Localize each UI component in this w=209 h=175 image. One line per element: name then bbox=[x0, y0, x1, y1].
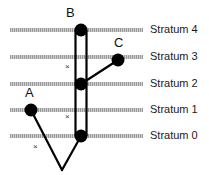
node-a bbox=[25, 104, 38, 117]
stratum-label-2: Stratum 2 bbox=[150, 78, 198, 89]
stratum-label-3: Stratum 3 bbox=[150, 51, 198, 62]
node-stratum-2-junction bbox=[75, 78, 88, 91]
extinction-mark-lower-icon: × bbox=[65, 113, 70, 121]
node-label-b: B bbox=[66, 6, 75, 19]
node-label-c: C bbox=[114, 36, 123, 49]
stratum-label-4: Stratum 4 bbox=[150, 24, 198, 35]
stratigraphic-diagram: Stratum 4 Stratum 3 Stratum 2 Stratum 1 … bbox=[0, 0, 209, 175]
extinction-mark-upper-icon: × bbox=[65, 63, 70, 71]
branch-a-to-root bbox=[31, 110, 62, 170]
node-b bbox=[75, 24, 88, 37]
node-c bbox=[112, 54, 125, 67]
node-stratum-0-base bbox=[75, 130, 88, 143]
stratum-label-0: Stratum 0 bbox=[150, 130, 198, 141]
extinction-mark-branch-icon: × bbox=[33, 143, 38, 151]
node-label-a: A bbox=[25, 86, 34, 99]
stratum-label-1: Stratum 1 bbox=[150, 104, 198, 115]
